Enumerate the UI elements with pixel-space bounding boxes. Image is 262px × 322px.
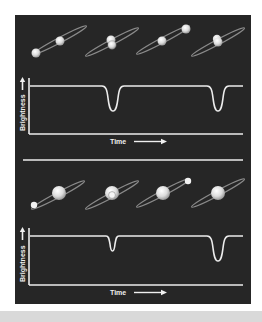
star-icon — [214, 38, 223, 47]
orbit-frame-2 — [84, 26, 139, 59]
bottom-light-curve: Brightness Time — [19, 227, 243, 296]
planet-icon — [108, 41, 116, 49]
small-companion-icon — [109, 192, 116, 199]
top-orbit-frames — [32, 24, 246, 59]
small-companion-icon — [185, 178, 191, 184]
y-axis-label: Brightness — [19, 245, 27, 282]
small-companion-icon — [31, 202, 37, 208]
up-arrow-icon — [20, 227, 25, 240]
planet-icon — [182, 25, 191, 34]
x-axis-label: Time — [110, 289, 126, 296]
x-axis-label: Time — [110, 138, 126, 145]
bottom-band — [0, 311, 262, 322]
y-axis-label: Brightness — [19, 94, 27, 131]
brightness-curve — [30, 236, 243, 261]
orbit-frame-1 — [30, 179, 85, 212]
orbit-frame-3 — [135, 177, 191, 210]
top-light-curve: Brightness Time — [19, 77, 243, 145]
orbit-frame-4 — [190, 26, 245, 59]
large-star-icon — [156, 186, 170, 200]
star-icon — [158, 37, 167, 46]
orbit-frame-4 — [190, 177, 245, 210]
star-icon — [56, 37, 65, 46]
brightness-curve — [30, 86, 243, 111]
right-arrow-icon — [134, 290, 167, 295]
orbit-frame-1 — [32, 24, 88, 58]
right-arrow-icon — [134, 139, 167, 144]
up-arrow-icon — [20, 77, 25, 90]
orbit-frame-2 — [84, 179, 139, 212]
large-star-icon — [52, 186, 66, 200]
transit-diagram: Brightness Time — [0, 0, 262, 322]
large-star-icon — [211, 186, 225, 200]
orbit-frame-3 — [135, 24, 190, 57]
bottom-orbit-frames — [30, 177, 245, 212]
planet-icon — [32, 49, 41, 58]
